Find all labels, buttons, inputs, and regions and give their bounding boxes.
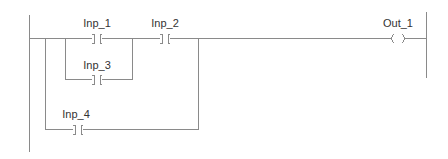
- contact-inp2-label: Inp_2: [151, 17, 179, 29]
- coil-out1-label: Out_1: [383, 17, 413, 29]
- contact-inp1-label: Inp_1: [83, 17, 111, 29]
- coil-out1-icon[interactable]: [392, 34, 405, 43]
- contact-inp2-icon[interactable]: [160, 34, 170, 43]
- contact-inp4-label: Inp_4: [62, 108, 90, 120]
- ladder-diagram: [0, 0, 448, 159]
- contact-inp3-label: Inp_3: [83, 59, 111, 71]
- contact-inp3-icon[interactable]: [92, 75, 102, 84]
- contact-inp1-icon[interactable]: [92, 34, 102, 43]
- contact-inp4-icon[interactable]: [73, 125, 83, 134]
